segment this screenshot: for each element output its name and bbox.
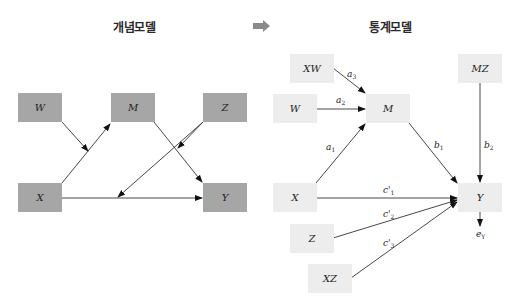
node-y-statistical: Y (458, 183, 502, 212)
node-z-statistical: Z (290, 224, 334, 253)
node-w-conceptual: W (18, 93, 62, 122)
coef-c1-prime: c'1 (383, 186, 394, 196)
node-mz-statistical: MZ (458, 54, 502, 83)
node-m-statistical: M (366, 94, 410, 123)
coef-c3-prime: c'3 (383, 239, 394, 249)
diagram-edges (0, 0, 516, 308)
coef-a1: a1 (326, 143, 335, 153)
node-xz-statistical: XZ (308, 264, 352, 293)
node-x-statistical: X (273, 183, 317, 212)
coef-a3: a3 (347, 70, 356, 80)
coef-b1: b1 (434, 141, 444, 151)
node-z-conceptual: Z (203, 93, 247, 122)
node-w-statistical: W (273, 94, 317, 123)
node-m-conceptual: M (111, 93, 155, 122)
node-y-conceptual: Y (203, 183, 247, 212)
error-term-ey: eY (476, 230, 485, 240)
coef-c2-prime: c'2 (383, 210, 394, 220)
coef-a2: a2 (336, 96, 345, 106)
node-x-conceptual: X (18, 183, 62, 212)
coef-b2: b2 (484, 141, 494, 151)
node-xw-statistical: XW (290, 54, 334, 83)
